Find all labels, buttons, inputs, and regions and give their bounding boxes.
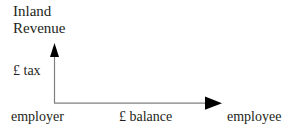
inland-revenue-axes-diagram: Inland Revenue £ tax employer £ balance … — [0, 0, 295, 131]
y-axis-label: £ tax — [13, 64, 41, 78]
x-axis-label: £ balance — [119, 110, 172, 124]
x-axis-origin-label: employer — [11, 110, 64, 124]
x-axis-arrowhead-icon — [205, 97, 222, 110]
x-axis-terminal-label: employee — [227, 110, 281, 124]
y-axis-arrowhead-icon — [50, 43, 59, 57]
